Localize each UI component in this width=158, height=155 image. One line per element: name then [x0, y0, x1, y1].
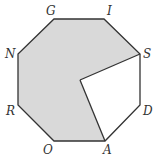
octagon-diagram: G I S D A O R N — [0, 0, 158, 155]
label-n: N — [4, 47, 16, 61]
label-i: I — [106, 4, 112, 18]
label-g: G — [46, 4, 56, 18]
label-a: A — [102, 143, 112, 155]
label-s: S — [143, 47, 151, 61]
label-o: O — [43, 143, 53, 155]
label-d: D — [142, 104, 153, 118]
label-r: R — [5, 104, 15, 118]
